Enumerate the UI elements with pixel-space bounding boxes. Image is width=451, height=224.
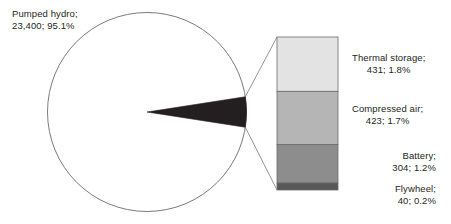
data-label-flywheel-name: Flywheel; <box>340 183 436 195</box>
data-label-flywheel-value: 40; 0.2% <box>340 195 436 207</box>
data-label-pumped-hydro-value: 23,400; 95.1% <box>12 20 78 32</box>
stacked-bar <box>277 37 338 190</box>
bar-segment-battery[interactable] <box>277 145 338 183</box>
data-label-battery-value: 304; 1.2% <box>340 162 436 174</box>
bar-segment-flywheel[interactable] <box>277 183 338 190</box>
data-label-compressed-air-value: 423; 1.7% <box>352 115 423 127</box>
data-label-battery: Battery; 304; 1.2% <box>340 150 436 174</box>
leader-line-top <box>245 37 277 97</box>
data-label-pumped-hydro-name: Pumped hydro; <box>12 8 78 20</box>
data-label-thermal-storage: Thermal storage; 431; 1.8% <box>352 52 425 76</box>
bar-of-pie-chart: Pumped hydro; 23,400; 95.1% Thermal stor… <box>0 0 451 224</box>
leader-lines <box>245 37 277 190</box>
data-label-compressed-air-name: Compressed air; <box>352 103 423 115</box>
data-label-thermal-storage-name: Thermal storage; <box>352 52 425 64</box>
data-label-battery-name: Battery; <box>340 150 436 162</box>
data-label-thermal-storage-value: 431; 1.8% <box>352 64 425 76</box>
data-label-compressed-air: Compressed air; 423; 1.7% <box>352 103 423 127</box>
bar-segment-compressed-air[interactable] <box>277 91 338 144</box>
data-label-pumped-hydro: Pumped hydro; 23,400; 95.1% <box>12 8 78 32</box>
data-label-flywheel: Flywheel; 40; 0.2% <box>340 183 436 207</box>
bar-segment-thermal-storage[interactable] <box>277 37 338 91</box>
leader-line-bottom <box>245 127 277 190</box>
